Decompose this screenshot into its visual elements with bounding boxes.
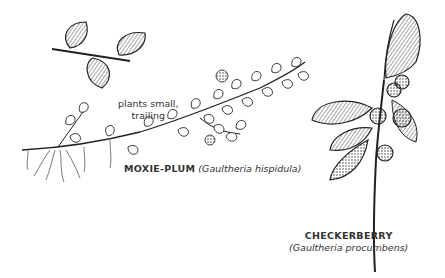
habit-note-line-1: plants small,	[118, 98, 179, 110]
habit-note-line-2: trailing	[118, 110, 179, 122]
checkerberry-scientific-name: (Gaultheria procumbens)	[289, 242, 408, 254]
habit-note: plants small, trailing	[118, 98, 179, 122]
checkerberry-caption: CHECKERBERRY (Gaultheria procumbens)	[289, 230, 408, 254]
moxie-plum-leaf-detail	[52, 22, 145, 88]
moxie-plum-scientific-name: (Gaultheria hispidula)	[198, 163, 301, 174]
moxie-plum-common-name: MOXIE-PLUM	[124, 163, 195, 174]
checkerberry-common-name: CHECKERBERRY	[289, 230, 408, 242]
moxie-plum-caption: MOXIE-PLUM (Gaultheria hispidula)	[124, 163, 301, 175]
